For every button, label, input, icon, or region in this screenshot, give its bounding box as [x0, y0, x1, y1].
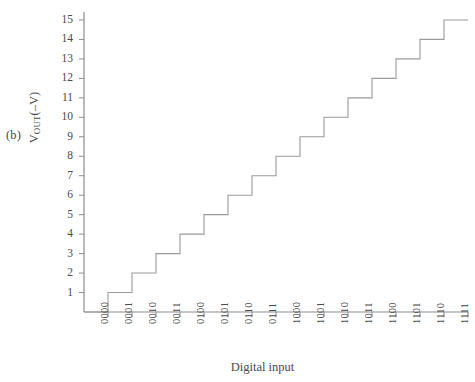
x-tick-label: 0110 [244, 302, 255, 324]
staircase-data-line [84, 20, 468, 312]
x-tick-label: 1110 [436, 303, 447, 324]
y-tick-label: 7 [47, 170, 73, 182]
y-tick-label: 8 [47, 150, 73, 162]
x-tick-label: 1111 [460, 303, 471, 324]
x-tick-label: 1101 [412, 302, 423, 324]
y-tick-label: 1 [47, 287, 73, 299]
x-tick-label: 0000 [100, 302, 111, 324]
x-tick-label: 0100 [196, 302, 207, 324]
x-tick-label: 0011 [172, 302, 183, 324]
dac-staircase-figure: (b) VOUT(–V) Digital input 1234567891011… [0, 0, 475, 382]
y-tick-label: 2 [47, 267, 73, 279]
y-tick-label: 15 [47, 14, 73, 26]
x-tick-label: 0010 [148, 302, 159, 324]
x-tick-label: 0001 [124, 302, 135, 324]
y-tick-label: 6 [47, 189, 73, 201]
y-tick-label: 10 [47, 111, 73, 123]
x-tick-label: 1100 [388, 302, 399, 324]
x-tick-label: 1001 [316, 302, 327, 324]
y-tick-label: 4 [47, 228, 73, 240]
y-tick-label: 3 [47, 248, 73, 260]
y-tick-marks [79, 20, 84, 293]
x-tick-label: 1011 [364, 302, 375, 324]
x-tick-label: 1010 [340, 302, 351, 324]
y-tick-label: 9 [47, 131, 73, 143]
y-tick-label: 13 [47, 53, 73, 65]
x-tick-label: 0101 [220, 302, 231, 324]
y-tick-label: 14 [47, 33, 73, 45]
y-tick-label: 12 [47, 72, 73, 84]
x-tick-label: 1000 [292, 302, 303, 324]
y-tick-label: 11 [47, 92, 73, 104]
x-tick-label: 0111 [268, 303, 279, 324]
y-tick-label: 5 [47, 209, 73, 221]
